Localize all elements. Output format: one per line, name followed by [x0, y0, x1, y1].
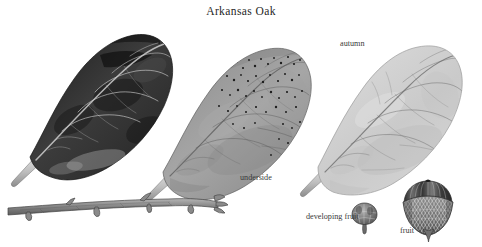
twig-stem	[8, 199, 218, 215]
twig-bud-terminal-3	[214, 207, 225, 213]
label-autumn: autumn	[340, 40, 365, 48]
page-title: Arkansas Oak	[0, 6, 482, 18]
acorn-cup-tip	[423, 229, 434, 242]
botanical-illustration	[0, 0, 482, 247]
twig-bud-terminal-1	[214, 195, 225, 201]
label-underside: underside	[240, 174, 272, 182]
specimen-leaf-autumn	[300, 46, 465, 197]
twig-bud-lateral-4	[188, 205, 194, 214]
twig-bud-terminal-2	[216, 202, 228, 207]
illustration-plate: Arkansas Oak autumn underside developing…	[0, 0, 482, 247]
twig-bud-lateral-1	[26, 212, 32, 221]
label-fruit: fruit	[400, 227, 414, 235]
label-developing-fruit: developing fruit	[306, 213, 359, 221]
specimen-leaf-upper-surface	[11, 30, 172, 187]
twig-bud-lateral-3	[147, 204, 152, 213]
